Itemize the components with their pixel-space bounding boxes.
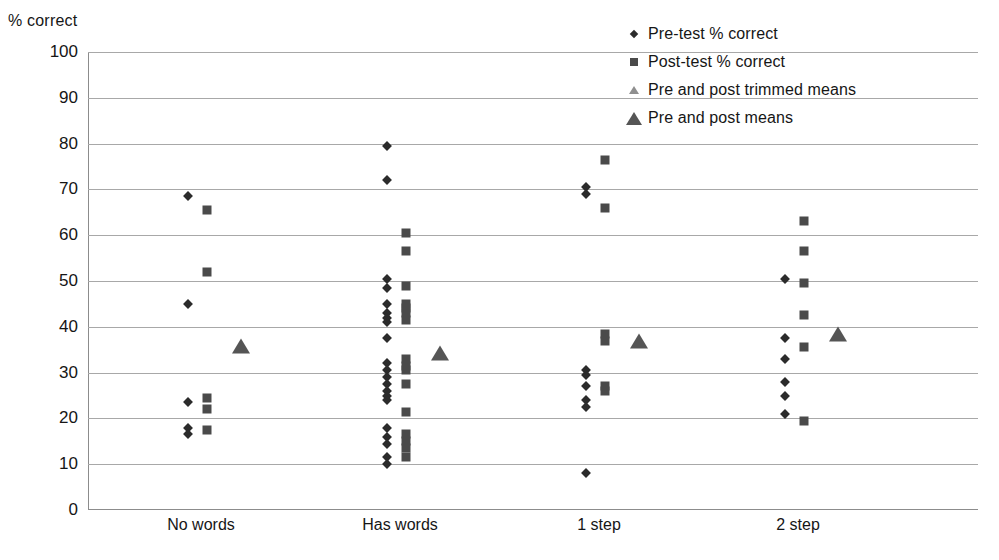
square-icon [620, 58, 648, 66]
data-point-diamond [780, 354, 790, 364]
data-point-triangle-large [232, 339, 250, 354]
gridline [88, 235, 978, 236]
data-point-square [203, 206, 212, 215]
y-axis-tick-label: 50 [8, 271, 78, 291]
data-point-diamond [581, 189, 591, 199]
triangle-large-icon [620, 112, 648, 125]
diamond-icon [620, 31, 648, 37]
data-point-square [402, 444, 411, 453]
gridline [88, 418, 978, 419]
data-point-diamond [382, 423, 392, 433]
gridline [88, 464, 978, 465]
y-axis-tick-label: 70 [8, 179, 78, 199]
y-axis-tick-label: 40 [8, 317, 78, 337]
data-point-square [402, 453, 411, 462]
data-point-diamond [581, 402, 591, 412]
legend-item: Pre and post means [620, 104, 950, 132]
legend-item-label: Post-test % correct [648, 53, 785, 71]
legend-item: Pre-test % correct [620, 20, 950, 48]
data-point-diamond [183, 429, 193, 439]
gridline [88, 373, 978, 374]
data-point-diamond [581, 381, 591, 391]
data-point-square [402, 228, 411, 237]
y-axis-tick-label: 80 [8, 134, 78, 154]
legend-item-label: Pre-test % correct [648, 25, 778, 43]
data-point-diamond [382, 283, 392, 293]
data-point-diamond [382, 141, 392, 151]
gridline [88, 144, 978, 145]
data-point-square [800, 416, 809, 425]
triangle-large-icon-glyph [626, 112, 642, 125]
data-point-square [601, 155, 610, 164]
data-point-diamond [183, 397, 193, 407]
data-point-diamond [183, 299, 193, 309]
y-axis-tick-label: 0 [8, 500, 78, 520]
data-point-triangle-large [829, 326, 847, 341]
y-axis-tick-label: 20 [8, 408, 78, 428]
data-point-square [203, 393, 212, 402]
chart-legend: Pre-test % correctPost-test % correctPre… [620, 20, 950, 132]
data-point-diamond [382, 333, 392, 343]
data-point-square [402, 281, 411, 290]
data-point-diamond [382, 459, 392, 469]
data-point-square [402, 315, 411, 324]
data-point-square [601, 386, 610, 395]
data-point-square [800, 247, 809, 256]
data-point-diamond [780, 333, 790, 343]
data-point-square [402, 380, 411, 389]
y-axis-tick-labels: 1009080706050403020100 [0, 52, 78, 510]
legend-item: Pre and post trimmed means [620, 76, 950, 104]
y-axis-tick-label: 60 [8, 225, 78, 245]
diamond-icon-glyph [630, 30, 638, 38]
data-point-triangle-large [630, 333, 648, 348]
scatter-chart: % correct 1009080706050403020100 No word… [0, 0, 999, 560]
data-point-diamond [382, 439, 392, 449]
y-axis-tick-label: 10 [8, 454, 78, 474]
y-axis-title: % correct [8, 12, 77, 30]
legend-item-label: Pre and post trimmed means [648, 81, 856, 99]
data-point-square [601, 203, 610, 212]
data-point-diamond [183, 191, 193, 201]
data-point-diamond [382, 175, 392, 185]
data-point-diamond [780, 409, 790, 419]
y-axis-tick-label: 90 [8, 88, 78, 108]
data-point-square [203, 405, 212, 414]
y-axis-tick-label: 30 [8, 363, 78, 383]
data-point-triangle-large [431, 345, 449, 360]
triangle-small-icon-glyph [629, 86, 639, 94]
x-axis-tick-label: 1 step [577, 516, 621, 534]
data-point-square [402, 247, 411, 256]
data-point-square [402, 407, 411, 416]
gridline [88, 281, 978, 282]
data-point-diamond [581, 468, 591, 478]
data-point-square [800, 279, 809, 288]
triangle-small-icon [620, 86, 648, 94]
data-point-diamond [780, 377, 790, 387]
data-point-square [800, 311, 809, 320]
gridline [88, 189, 978, 190]
x-axis-tick-label: 2 step [776, 516, 820, 534]
square-icon-glyph [630, 58, 638, 66]
x-axis-tick-label: No words [167, 516, 235, 534]
data-point-diamond [780, 391, 790, 401]
data-point-square [203, 425, 212, 434]
data-point-square [601, 336, 610, 345]
x-axis-tick-label: Has words [362, 516, 438, 534]
data-point-square [203, 267, 212, 276]
legend-item: Post-test % correct [620, 48, 950, 76]
legend-item-label: Pre and post means [648, 109, 793, 127]
data-point-square [402, 366, 411, 375]
data-point-square [800, 343, 809, 352]
data-point-square [800, 217, 809, 226]
x-axis-line [88, 509, 978, 510]
y-axis-tick-label: 100 [8, 42, 78, 62]
data-point-diamond [780, 274, 790, 284]
